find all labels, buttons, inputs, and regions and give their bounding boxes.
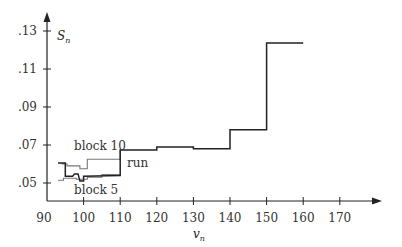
x-tick-label: 150 (255, 211, 278, 225)
x-tick-label: 110 (109, 211, 132, 225)
step-chart: .05.07.09.11.139010011012013014015016017… (0, 0, 402, 247)
x-tick-label: 130 (182, 211, 205, 225)
y-tick-label: .11 (18, 62, 37, 76)
y-axis-label: Sn (57, 29, 70, 45)
axes: .05.07.09.11.139010011012013014015016017… (18, 12, 382, 225)
x-tick-label: 160 (292, 211, 315, 225)
y-axis-arrow-icon (44, 12, 51, 22)
series-group (58, 43, 303, 181)
x-axis-label: vn (193, 227, 205, 243)
x-tick-label: 100 (72, 211, 95, 225)
y-tick-label: .09 (18, 100, 37, 114)
label-block-10: block 10 (74, 139, 126, 153)
x-tick-label: 120 (145, 211, 168, 225)
y-tick-label: .07 (18, 138, 37, 152)
y-tick-label: .05 (18, 176, 37, 190)
label-run: run (127, 156, 148, 170)
x-tick-label: 170 (328, 211, 351, 225)
y-tick-label: .13 (18, 24, 37, 38)
series-run (58, 43, 303, 181)
x-tick-label: 90 (36, 211, 51, 225)
label-block-5: block 5 (74, 183, 118, 197)
x-axis-arrow-icon (372, 198, 382, 205)
x-tick-label: 140 (219, 211, 242, 225)
